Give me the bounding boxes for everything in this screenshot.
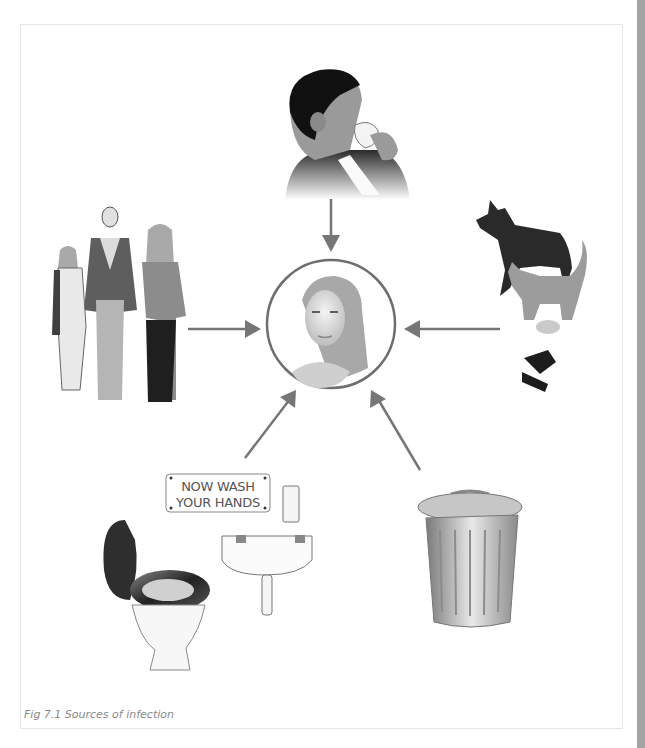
arrow-from-top	[322, 199, 340, 252]
arrow-from-bottom-left	[245, 390, 296, 458]
animals-illustration	[476, 200, 587, 392]
arrow-from-bottom-right	[370, 390, 420, 470]
infection-sources-diagram: NOW WASH YOUR HANDS	[0, 0, 645, 748]
arrow-from-left	[188, 320, 261, 338]
sign-line-1: NOW WASH	[181, 479, 255, 494]
sign-line-2: YOUR HANDS	[175, 495, 260, 510]
toilet-and-sink-illustration: NOW WASH YOUR HANDS	[103, 474, 312, 670]
figure-caption: Fig 7.1 Sources of infection	[24, 708, 174, 721]
people-illustration	[52, 207, 186, 402]
arrow-from-right	[404, 320, 500, 338]
infected-person-portrait	[267, 260, 395, 388]
waste-bin-illustration	[418, 491, 522, 627]
sneezing-person-illustration	[285, 69, 410, 200]
